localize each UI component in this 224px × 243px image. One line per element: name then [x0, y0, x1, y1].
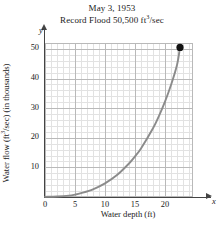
data-curve-layer: [0, 0, 224, 243]
record-flood-point: [176, 44, 183, 51]
chart-figure: May 3, 1953 Record Flood 50,500 ft3/sec …: [0, 0, 224, 243]
flood-curve: [45, 47, 180, 196]
